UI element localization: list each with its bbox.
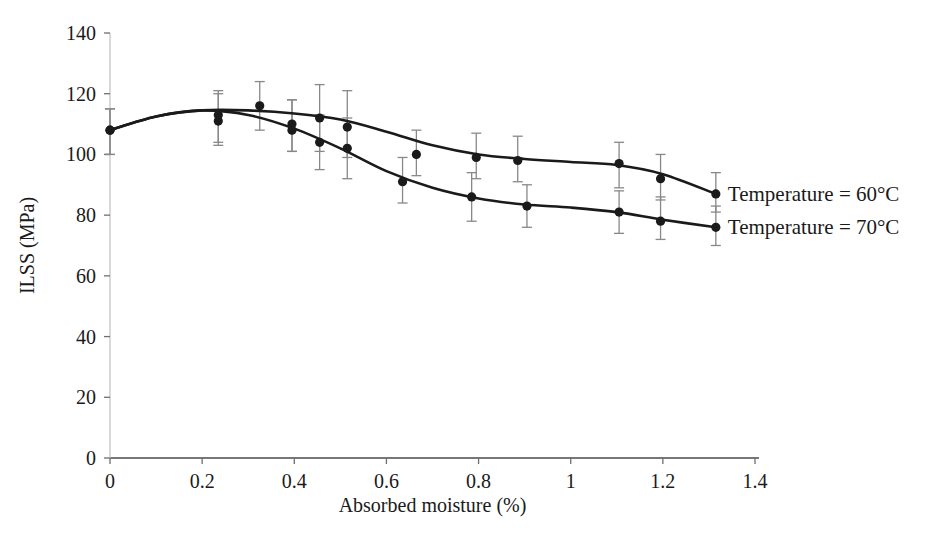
y-tick-label: 100 [66, 143, 96, 165]
y-tick-label: 20 [76, 386, 96, 408]
x-tick-label: 0 [105, 470, 115, 492]
data-point [467, 192, 476, 201]
y-axis-title: ILSS (MPa) [16, 197, 39, 294]
x-tick-label: 1.4 [743, 470, 768, 492]
data-point [614, 159, 623, 168]
x-tick-label: 0.6 [374, 470, 399, 492]
data-point [214, 116, 223, 125]
series-1-markers [105, 101, 720, 198]
data-point [513, 156, 522, 165]
series-1-error-bars [105, 82, 721, 213]
data-point [343, 123, 352, 132]
data-point [656, 217, 665, 226]
data-point [398, 177, 407, 186]
chart-figure: 00.20.40.60.811.21.4020406080100120140Ab… [0, 0, 927, 550]
data-point [522, 201, 531, 210]
x-tick-label: 1.2 [650, 470, 675, 492]
legend-label-series-1: Temperature = 60°C [728, 182, 900, 206]
x-tick-label: 0.2 [190, 470, 215, 492]
y-tick-label: 120 [66, 83, 96, 105]
legend-label-series-2: Temperature = 70°C [728, 215, 900, 239]
x-tick-label: 0.4 [282, 470, 307, 492]
x-tick-label: 1 [566, 470, 576, 492]
series-2-curve [110, 110, 716, 227]
data-point [711, 189, 720, 198]
x-tick-label: 0.8 [466, 470, 491, 492]
data-point [614, 208, 623, 217]
x-axis-title: Absorbed moisture (%) [339, 494, 527, 517]
data-point [656, 174, 665, 183]
data-point [315, 113, 324, 122]
data-point [472, 153, 481, 162]
y-tick-label: 80 [76, 204, 96, 226]
data-point [315, 138, 324, 147]
series-2-error-bars [105, 94, 721, 246]
y-tick-label: 140 [66, 22, 96, 44]
y-tick-label: 0 [86, 447, 96, 469]
data-point [412, 150, 421, 159]
data-point [711, 223, 720, 232]
data-point [105, 126, 114, 135]
data-point [255, 101, 264, 110]
data-point [287, 119, 296, 128]
data-point [343, 144, 352, 153]
y-tick-label: 60 [76, 265, 96, 287]
y-tick-label: 40 [76, 326, 96, 348]
